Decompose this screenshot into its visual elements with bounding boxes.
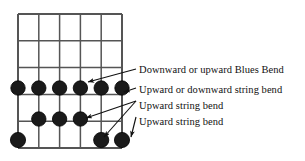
leader-lines-group — [86, 69, 136, 137]
fret-dot — [32, 112, 46, 126]
leader-line — [88, 69, 136, 82]
fretboard-annotation-figure: Downward or upward Blues Bend Upward or … — [0, 0, 305, 161]
fret-dot — [11, 81, 25, 95]
fret-dot — [73, 81, 87, 95]
fret-dot — [10, 132, 25, 147]
fret-dot — [94, 81, 108, 95]
fret-dot — [115, 81, 129, 95]
leader-line — [131, 117, 136, 137]
fret-dot — [114, 132, 129, 147]
fret-dot — [52, 112, 66, 126]
fretboard-grid — [18, 14, 122, 148]
fret-dot — [32, 81, 46, 95]
fret-dots-group — [10, 81, 129, 148]
diagram-canvas — [0, 0, 305, 161]
fret-dot — [73, 112, 87, 126]
fret-dot — [52, 81, 66, 95]
